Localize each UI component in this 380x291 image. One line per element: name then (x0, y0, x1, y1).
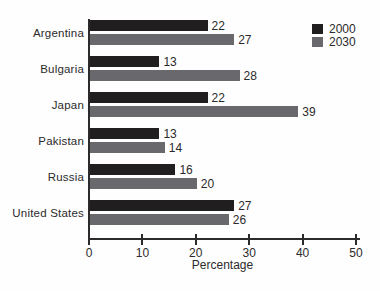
value-label-2030: 14 (169, 142, 182, 153)
bar-2000 (90, 56, 159, 67)
bar-2000 (90, 128, 159, 139)
category-label: Japan (0, 92, 84, 117)
bar-2030 (90, 214, 229, 225)
value-label-2000: 27 (238, 200, 251, 211)
legend: 20002030 (312, 24, 356, 50)
value-label-2000: 16 (179, 164, 192, 175)
y-axis-line (88, 19, 90, 245)
x-axis-line (88, 238, 360, 240)
value-label-2030: 39 (302, 106, 315, 117)
bar-2000 (90, 164, 175, 175)
category-label: Russia (0, 164, 84, 189)
legend-row-2000: 2000 (312, 24, 356, 34)
bar-2030 (90, 142, 165, 153)
bar-2030 (90, 106, 298, 117)
category-label: Pakistan (0, 128, 84, 153)
value-label-2000: 22 (212, 20, 225, 31)
x-axis-title: Percentage (89, 258, 356, 272)
legend-swatch-2030 (312, 37, 323, 47)
legend-label-2000: 2000 (329, 24, 356, 34)
legend-swatch-2000 (312, 24, 323, 34)
value-label-2000: 13 (163, 56, 176, 67)
value-label-2030: 20 (201, 178, 214, 189)
value-label-2030: 27 (238, 34, 251, 45)
category-label: United States (0, 200, 84, 225)
bar-2030 (90, 34, 234, 45)
legend-label-2030: 2030 (329, 37, 356, 47)
bar-2000 (90, 20, 208, 31)
value-label-2000: 13 (163, 128, 176, 139)
bar-2000 (90, 92, 208, 103)
category-label: Argentina (0, 20, 84, 45)
legend-row-2030: 2030 (312, 37, 356, 47)
bar-2030 (90, 70, 240, 81)
bar-2030 (90, 178, 197, 189)
bar-2000 (90, 200, 234, 211)
value-label-2030: 28 (244, 70, 257, 81)
value-label-2030: 26 (233, 214, 246, 225)
grouped-bar-chart: Argentina2227Bulgaria1328Japan2239Pakist… (0, 0, 380, 291)
category-label: Bulgaria (0, 56, 84, 81)
value-label-2000: 22 (212, 92, 225, 103)
